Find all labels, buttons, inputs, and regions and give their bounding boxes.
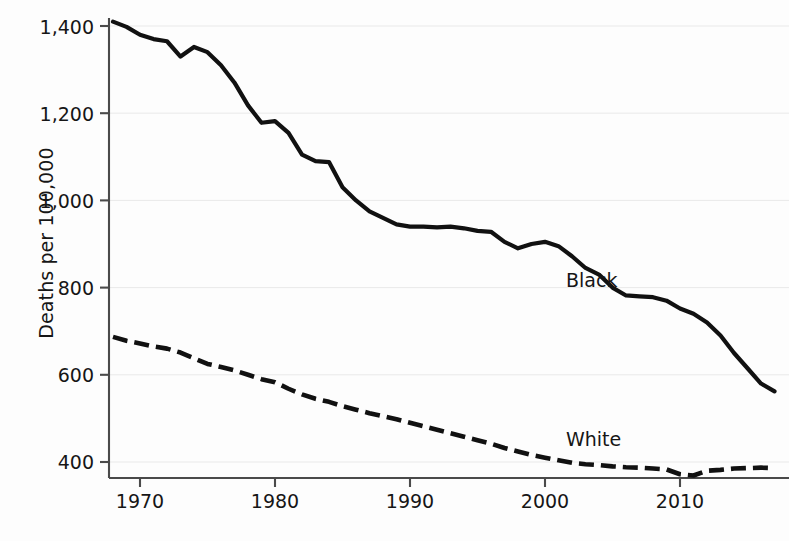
y-tick-label-1000: 1,000 — [14, 190, 94, 212]
x-tick-label-1980: 1980 — [230, 490, 320, 512]
y-tick-label-1400: 1,400 — [14, 16, 94, 38]
x-tick-marks — [140, 478, 680, 487]
chart-plot-area — [0, 0, 789, 541]
data-series-group — [113, 22, 775, 476]
series-line-white — [113, 337, 775, 476]
y-tick-label-1200: 1,200 — [14, 103, 94, 125]
x-tick-label-2010: 2010 — [635, 490, 725, 512]
x-tick-label-2000: 2000 — [500, 490, 590, 512]
axes-group — [109, 18, 789, 478]
y-tick-label-600: 600 — [14, 364, 94, 386]
y-tick-marks — [100, 26, 109, 462]
y-tick-label-800: 800 — [14, 277, 94, 299]
gridlines-group — [110, 26, 789, 462]
x-tick-label-1990: 1990 — [365, 490, 455, 512]
series-line-black — [113, 22, 775, 392]
series-annotation-white: White — [566, 428, 621, 450]
y-axis-title: Deaths per 100,000 — [35, 93, 57, 393]
x-tick-label-1970: 1970 — [95, 490, 185, 512]
series-annotation-black: Black — [566, 269, 617, 291]
chart-container: Deaths per 100,000 1,400 1,200 1,000 800… — [0, 0, 789, 541]
y-tick-label-400: 400 — [14, 451, 94, 473]
